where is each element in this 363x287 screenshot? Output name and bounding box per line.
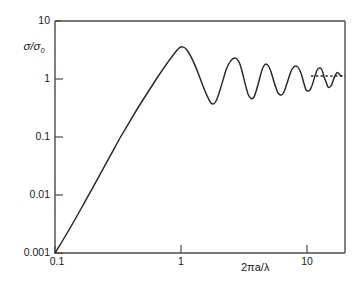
y-tick-label-0-1: 0.1 — [35, 130, 50, 142]
y-tick-label-0-01: 0.01 — [30, 188, 51, 200]
x-axis-title: 2πa/λ — [241, 261, 270, 273]
x-tick-label-0-1: 0.1 — [50, 255, 65, 267]
mie-scattering-chart: 10 1 0.1 0.01 0.001 0.1 1 10 σ/σ0 2πa/λ — [0, 0, 363, 287]
y-tick-label-0-001: 0.001 — [24, 246, 50, 258]
mie-curve — [55, 47, 342, 253]
y-axis-title-sub: 0 — [40, 46, 45, 55]
svg-text:σ/σ0: σ/σ0 — [23, 40, 45, 55]
y-axis-title-main: σ/σ — [23, 40, 41, 52]
plot-frame — [55, 21, 345, 253]
x-tick-label-10: 10 — [301, 255, 313, 267]
x-tick-label-1: 1 — [178, 255, 184, 267]
y-axis-title: σ/σ0 — [23, 40, 45, 55]
x-axis-ticks — [55, 245, 307, 253]
y-axis-ticks — [55, 21, 63, 253]
x-axis-tick-labels: 0.1 1 10 — [50, 255, 313, 267]
y-tick-label-1: 1 — [44, 72, 50, 84]
y-tick-label-10: 10 — [38, 14, 50, 26]
figure-container: 10 1 0.1 0.01 0.001 0.1 1 10 σ/σ0 2πa/λ — [0, 0, 363, 287]
